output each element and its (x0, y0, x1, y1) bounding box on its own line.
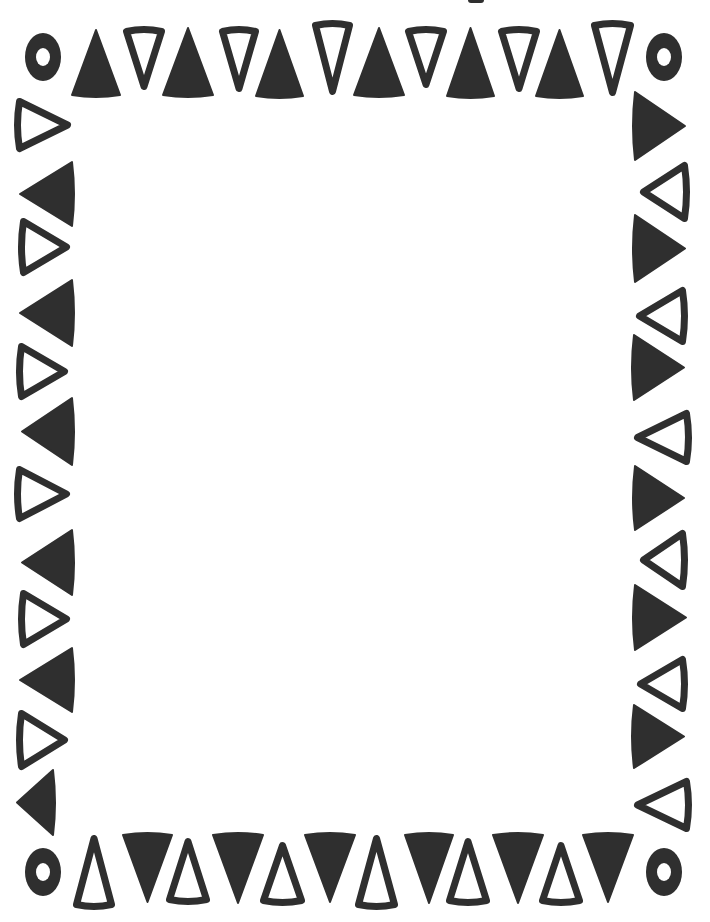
filled-triangle-down-icon (493, 833, 543, 903)
filled-triangle-right-icon (633, 92, 685, 160)
filled-triangle-down-icon (213, 833, 263, 903)
filled-triangle-left-icon (22, 530, 74, 595)
filled-triangle-up-icon (354, 28, 404, 97)
outline-triangle-right-icon (22, 594, 67, 645)
outline-triangle-down-icon (502, 30, 537, 89)
corner-ring-icon-bottom-left (25, 848, 61, 896)
outline-triangle-up-icon (359, 839, 395, 907)
filled-triangle-left-icon (20, 280, 74, 346)
outline-triangle-left-icon (640, 291, 685, 342)
outline-triangle-left-icon (641, 660, 685, 709)
outline-triangle-up-icon (543, 846, 580, 903)
outline-triangle-left-icon (638, 782, 689, 829)
bottom-border-row (77, 833, 634, 907)
outline-triangle-left-icon (638, 414, 689, 462)
filled-triangle-down-icon (405, 833, 453, 903)
outline-triangle-down-icon (595, 24, 631, 93)
outline-triangle-down-icon (316, 24, 350, 92)
filled-triangle-left-icon (20, 648, 74, 712)
outline-triangle-up-icon (170, 842, 207, 902)
cropped-shape-fragment (468, 0, 484, 3)
filled-triangle-up-icon (163, 28, 213, 97)
outline-triangle-right-icon (18, 470, 67, 519)
corner-ring-icon-bottom-right (646, 848, 682, 896)
filled-triangle-up-icon (72, 30, 120, 97)
filled-triangle-up-icon (536, 30, 583, 98)
filled-triangle-right-icon (632, 335, 684, 400)
filled-triangle-up-icon (447, 28, 494, 98)
filled-triangle-left-icon (22, 398, 74, 465)
left-border-column (17, 102, 74, 836)
blank-content-area (100, 110, 610, 810)
filled-triangle-down-icon (305, 833, 355, 902)
filled-triangle-right-icon (633, 585, 686, 650)
outline-triangle-right-icon (20, 714, 65, 767)
outline-triangle-down-icon (223, 30, 256, 89)
top-border-row (72, 24, 631, 99)
right-border-column (632, 92, 689, 829)
outline-triangle-left-icon (644, 166, 687, 219)
filled-triangle-down-icon (123, 833, 172, 902)
outline-triangle-right-icon (22, 222, 67, 273)
outline-triangle-up-icon (450, 842, 487, 903)
outline-triangle-right-icon (18, 102, 68, 149)
outline-triangle-down-icon (409, 30, 444, 85)
outline-triangle-right-icon (20, 347, 65, 397)
outline-triangle-up-icon (77, 839, 112, 907)
filled-triangle-right-icon (633, 215, 685, 282)
filled-triangle-up-icon (256, 30, 303, 98)
filled-triangle-down-icon (583, 833, 633, 902)
filled-triangle-right-icon (632, 705, 684, 768)
filled-triangle-right-icon (633, 466, 684, 530)
filled-triangle-left-icon (20, 162, 74, 226)
corner-ring-icon-top-left (25, 33, 61, 81)
corner-ring-icon-top-right (646, 33, 682, 81)
filled-triangle-left-icon (17, 770, 55, 835)
outline-triangle-up-icon (264, 846, 302, 903)
outline-triangle-left-icon (644, 534, 685, 587)
outline-triangle-down-icon (127, 30, 162, 87)
border-frame-page (0, 0, 710, 922)
